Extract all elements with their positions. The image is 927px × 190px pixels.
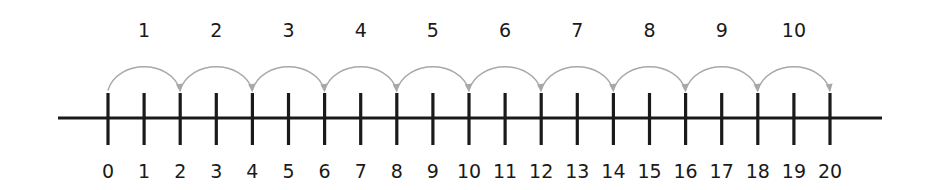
hop-arc [397, 67, 469, 90]
tick-label: 15 [637, 160, 661, 182]
tick-label: 6 [319, 160, 331, 182]
tick-labels-group: 01234567891011121314151617181920 [102, 160, 842, 182]
hop-arcs-group [108, 67, 833, 93]
tick-label: 11 [493, 160, 517, 182]
hop-arc [686, 67, 758, 90]
hop-label: 6 [499, 19, 511, 41]
tick-label: 0 [102, 160, 114, 182]
hop-arrowhead-icon [826, 84, 833, 93]
hop-arc [325, 67, 397, 90]
tick-label: 17 [710, 160, 734, 182]
tick-label: 7 [355, 160, 367, 182]
tick-label: 14 [601, 160, 625, 182]
tick-label: 19 [782, 160, 806, 182]
hop-arc [541, 67, 613, 90]
hop-label: 10 [782, 19, 806, 41]
tick-label: 13 [565, 160, 589, 182]
hop-label: 7 [571, 19, 583, 41]
tick-label: 4 [246, 160, 258, 182]
tick-label: 1 [138, 160, 150, 182]
hop-labels-group: 12345678910 [138, 19, 806, 41]
tick-label: 16 [674, 160, 698, 182]
tick-label: 12 [529, 160, 553, 182]
hop-arc [252, 67, 324, 90]
number-line-figure: 12345678910 0123456789101112131415161718… [0, 0, 927, 190]
hop-arc [469, 67, 541, 90]
tick-label: 10 [457, 160, 481, 182]
tick-label: 8 [391, 160, 403, 182]
hop-label: 3 [282, 19, 294, 41]
tick-label: 2 [174, 160, 186, 182]
tick-label: 18 [746, 160, 770, 182]
hop-arc [180, 67, 252, 90]
hop-arc [613, 67, 685, 90]
tick-label: 9 [427, 160, 439, 182]
tick-label: 3 [210, 160, 222, 182]
hop-label: 1 [138, 19, 150, 41]
hop-label: 4 [355, 19, 367, 41]
tick-label: 20 [818, 160, 842, 182]
hop-arc [758, 67, 830, 90]
hop-label: 8 [643, 19, 655, 41]
hop-arc [108, 67, 180, 90]
hop-label: 9 [716, 19, 728, 41]
hop-label: 5 [427, 19, 439, 41]
hop-label: 2 [210, 19, 222, 41]
tick-marks-group [108, 93, 830, 145]
number-line-canvas: 12345678910 0123456789101112131415161718… [0, 0, 927, 190]
tick-label: 5 [282, 160, 294, 182]
